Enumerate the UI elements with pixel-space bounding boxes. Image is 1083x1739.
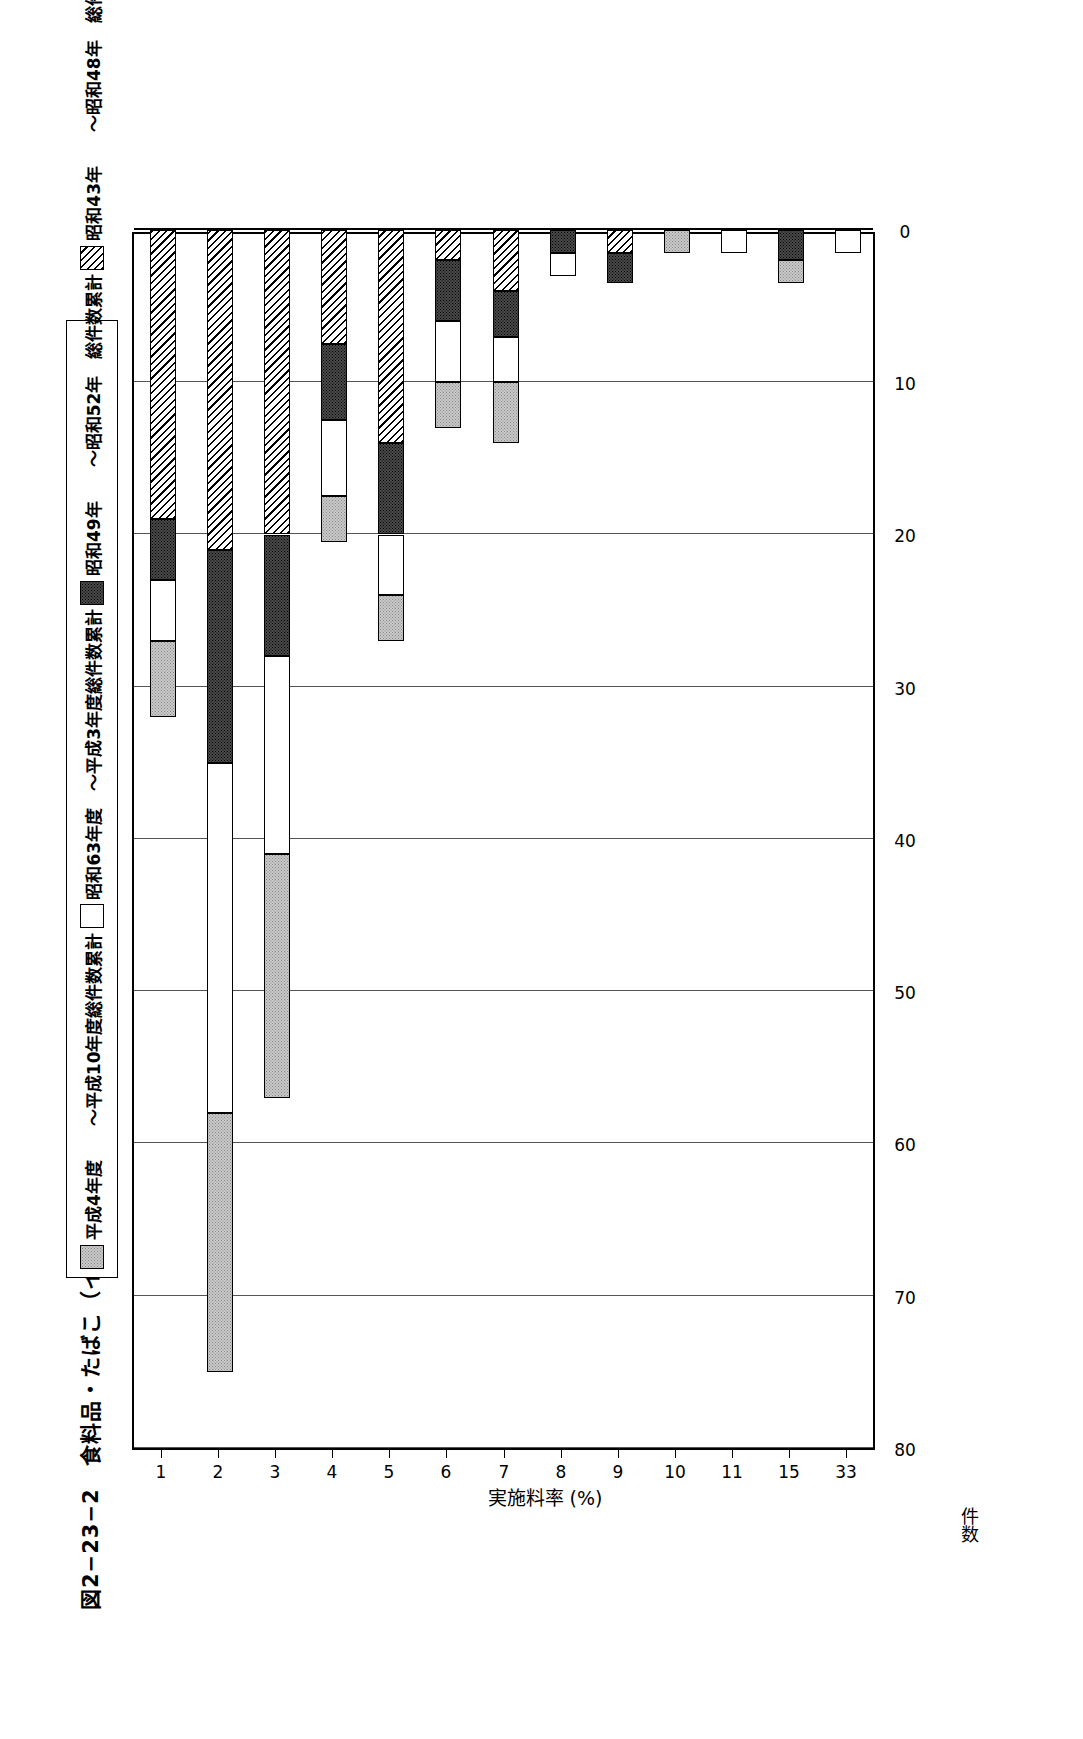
legend: 平成4年度 ～平成10年度総件数累計 昭和63年度 ～平成3年度総件数累計 昭和… [66, 320, 118, 1278]
bar-segment [778, 260, 804, 283]
bar-segment [263, 656, 289, 854]
value-axis-tick-label: 0 [899, 222, 910, 242]
stacked-bar [663, 234, 689, 1448]
category-axis-tick-label: 4 [312, 1462, 352, 1482]
bar-segment [378, 230, 404, 443]
bar-segment [321, 420, 347, 496]
category-axis-tick [160, 1450, 161, 1458]
bar-segment [435, 321, 461, 382]
legend-item: 平成4年度 ～平成10年度総件数累計 [79, 932, 104, 1269]
bar-segment [149, 519, 175, 580]
category-axis-tick-label: 15 [769, 1462, 809, 1482]
bar-segment [263, 854, 289, 1098]
category-axis-tick [217, 1450, 218, 1458]
value-axis-tick-label: 70 [894, 1287, 916, 1307]
bar-segment [321, 496, 347, 542]
category-axis-tick-label: 6 [426, 1462, 466, 1482]
bar-segment [835, 230, 861, 253]
stacked-bar [149, 234, 175, 1448]
category-axis-tick [789, 1450, 790, 1458]
legend-swatch-icon [80, 581, 104, 605]
stacked-bar [378, 234, 404, 1448]
category-axis-tick [846, 1450, 847, 1458]
bar-segment [606, 230, 632, 253]
stacked-bar [321, 234, 347, 1448]
legend-swatch-icon [80, 245, 104, 269]
stacked-bar [206, 234, 232, 1448]
category-axis-tick [446, 1450, 447, 1458]
legend-item-label: 昭和63年度 ～平成3年度総件数累計 [79, 609, 104, 900]
legend-item: 昭和43年 ～昭和48年 総件数累計 [79, 0, 104, 269]
value-axis-tick-label: 10 [894, 374, 916, 394]
bar-segment [149, 641, 175, 717]
value-axis-tick-label: 40 [894, 831, 916, 851]
stacked-bar [263, 234, 289, 1448]
category-axis-tick-label: 7 [483, 1462, 523, 1482]
value-axis-tick-label: 80 [894, 1440, 916, 1460]
bar-segment [492, 336, 518, 382]
legend-item: 昭和63年度 ～平成3年度総件数累計 [79, 609, 104, 929]
category-axis-tick [274, 1450, 275, 1458]
stacked-bar [721, 234, 747, 1448]
bar-segment [435, 382, 461, 428]
bar-segment [549, 252, 575, 275]
bar-segment [492, 230, 518, 291]
legend-swatch-icon [80, 1245, 104, 1269]
bar-segment [378, 534, 404, 595]
bar-segment [263, 534, 289, 656]
value-axis-tick-label: 20 [894, 526, 916, 546]
stacked-bar [435, 234, 461, 1448]
bar-segment [492, 382, 518, 443]
category-axis-tick [674, 1450, 675, 1458]
bar-segment [435, 230, 461, 260]
figure-stage: 図2−23−2 食料品・たばこ（イニシャル 無）の実施料率別契約件数 平成4年度… [62, 90, 1022, 1650]
category-axis-tick-label: 8 [540, 1462, 580, 1482]
bar-segment [149, 580, 175, 641]
category-axis-tick-label: 3 [254, 1462, 294, 1482]
bar-segment [321, 230, 347, 344]
stacked-bar [492, 234, 518, 1448]
legend-item-label: 昭和43年 ～昭和48年 総件数累計 [79, 0, 104, 240]
bar-segment [263, 230, 289, 535]
legend-item-label: 平成4年度 ～平成10年度総件数累計 [79, 932, 104, 1240]
category-axis-tick-label: 33 [826, 1462, 866, 1482]
category-axis-tick [332, 1450, 333, 1458]
category-axis-tick-label: 1 [140, 1462, 180, 1482]
category-axis-tick-label: 5 [369, 1462, 409, 1482]
value-axis-tick-label: 50 [894, 983, 916, 1003]
bar-segment [378, 443, 404, 534]
value-axis-title: 件数 [961, 1508, 983, 1544]
stacked-bar [835, 234, 861, 1448]
bar-segment [549, 230, 575, 253]
bar-segment [492, 290, 518, 336]
bar-segment [663, 230, 689, 253]
stacked-bar [606, 234, 632, 1448]
bar-segment [321, 344, 347, 420]
bar-segment [206, 1113, 232, 1372]
category-axis-tick [503, 1450, 504, 1458]
bar-segment [778, 230, 804, 260]
plot-area-wrapper: 実施料率 (%) 件数 12345678910111533 8070605040… [122, 232, 967, 1562]
value-axis-tick-label: 30 [894, 678, 916, 698]
category-axis-tick [389, 1450, 390, 1458]
bar-segment [435, 260, 461, 321]
bar-segment [206, 762, 232, 1112]
stacked-bar [549, 234, 575, 1448]
category-axis-tick [732, 1450, 733, 1458]
bar-segment [206, 230, 232, 550]
bar-segment [149, 230, 175, 519]
category-axis-title: 実施料率 (%) [487, 1483, 602, 1510]
bar-segment [378, 595, 404, 641]
bar-segment [606, 252, 632, 282]
category-axis-tick [617, 1450, 618, 1458]
category-axis-tick-label: 9 [597, 1462, 637, 1482]
stacked-bar [778, 234, 804, 1448]
bar-segment [206, 549, 232, 762]
legend-swatch-icon [80, 904, 104, 928]
bar-segment [721, 230, 747, 253]
category-axis-tick [560, 1450, 561, 1458]
plot-area [132, 232, 875, 1450]
category-axis-tick-label: 2 [197, 1462, 237, 1482]
legend-item: 昭和49年 ～昭和52年 総件数累計 [79, 273, 104, 604]
category-axis-tick-label: 11 [712, 1462, 752, 1482]
